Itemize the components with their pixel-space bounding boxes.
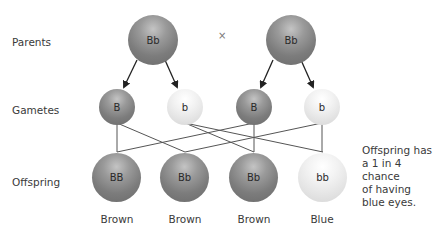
gamete-allele: B (251, 102, 258, 113)
line-b1-Bb2 (185, 123, 254, 152)
line-B2-BB (117, 123, 254, 152)
row-label-gametes: Gametes (12, 104, 59, 116)
offspring-ball-1: BB (92, 153, 141, 202)
note-line-4: blue eyes. (362, 196, 441, 209)
offspring-ball-3: Bb (229, 153, 278, 202)
gamete-allele: b (182, 102, 188, 113)
phenotype-label-2: Brown (155, 213, 215, 225)
phenotype-label-4: Blue (292, 213, 352, 225)
offspring-genotype: bb (316, 172, 329, 183)
note-line-1: Offspring has (362, 144, 441, 157)
offspring-genotype: Bb (247, 172, 260, 183)
arrow-parent2-to-gamete-B (261, 60, 273, 87)
gamete-ball-2: b (167, 89, 203, 125)
gamete-allele: B (114, 102, 121, 113)
cross-symbol: × (218, 30, 226, 41)
row-label-parents: Parents (12, 36, 51, 48)
gamete-allele: b (319, 102, 325, 113)
gamete-ball-3: B (236, 89, 272, 125)
row-label-offspring: Offspring (12, 176, 60, 188)
offspring-ball-4: bb (298, 153, 347, 202)
line-B1-Bb1 (117, 123, 185, 152)
parent-ball-1: Bb (128, 15, 178, 65)
phenotype-label-3: Brown (224, 213, 284, 225)
arrow-parent1-to-gamete-B (124, 60, 137, 87)
probability-note: Offspring has a 1 in 4 chance of having … (362, 144, 441, 209)
offspring-genotype: Bb (178, 172, 191, 183)
parent-genotype: Bb (284, 35, 297, 46)
gamete-ball-1: B (99, 89, 135, 125)
note-line-2: a 1 in 4 chance (362, 157, 441, 183)
gamete-ball-4: b (304, 89, 340, 125)
arrow-parent1-to-gamete-b (165, 60, 177, 87)
offspring-genotype: BB (110, 172, 124, 183)
offspring-ball-2: Bb (160, 153, 209, 202)
arrow-parent2-to-gamete-b (301, 60, 313, 87)
phenotype-label-1: Brown (87, 213, 147, 225)
parent-genotype: Bb (146, 35, 159, 46)
parent-ball-2: Bb (266, 15, 316, 65)
note-line-3: of having (362, 183, 441, 196)
